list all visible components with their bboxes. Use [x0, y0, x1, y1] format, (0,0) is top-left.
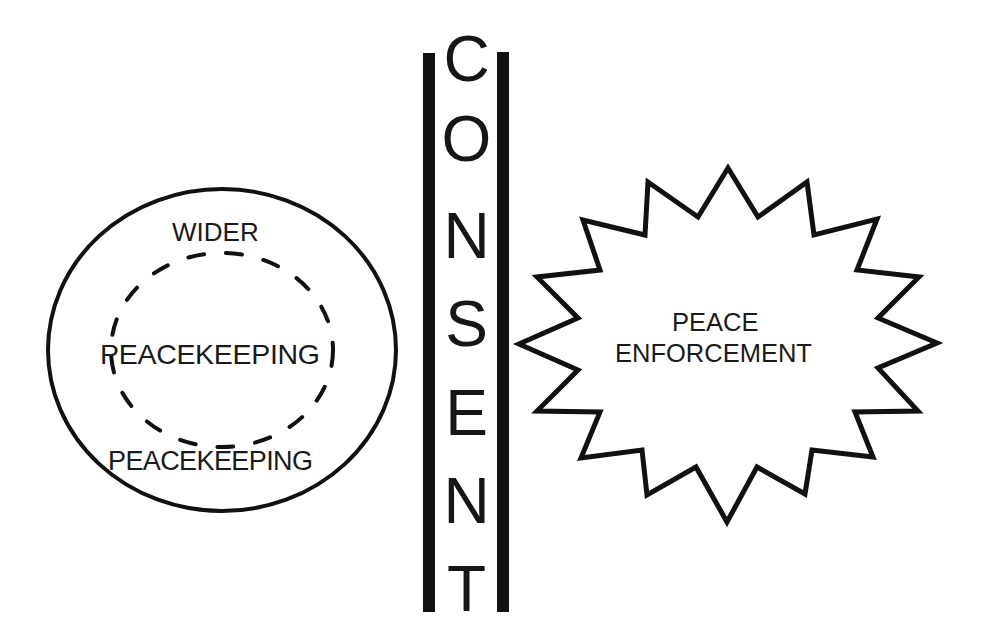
- consent-diagram: C O N S E N T WIDER PEACEKEEPING PEACEKE…: [0, 0, 986, 644]
- consent-letter-e: E: [436, 381, 497, 445]
- consent-letter-n: N: [436, 204, 497, 268]
- consent-left-bar: [423, 53, 435, 612]
- peacekeeping-inner-label: PEACEKEEPING: [100, 340, 320, 369]
- consent-letter-s: S: [436, 292, 497, 356]
- consent-letter-n2: N: [436, 469, 497, 533]
- consent-letter-o: O: [436, 107, 497, 171]
- peacekeeping-outer-label: PEACEKEEPING: [108, 448, 312, 475]
- peace-enforcement-label-line2: ENFORCEMENT: [615, 341, 812, 367]
- wider-label: WIDER: [172, 219, 259, 245]
- consent-letter-c: C: [436, 27, 497, 91]
- consent-right-bar: [497, 52, 509, 612]
- peace-enforcement-label-line1: PEACE: [672, 310, 758, 336]
- consent-letter-t: T: [436, 557, 497, 621]
